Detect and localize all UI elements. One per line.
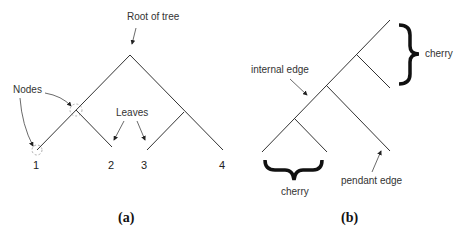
cherry-label-top: cherry (425, 48, 453, 59)
cherry-label-bottom: cherry (281, 186, 309, 197)
edge-root-to-leaf-4 (130, 55, 223, 150)
edge-to-leaf-2 (76, 110, 112, 147)
leaf-label-2: 2 (108, 159, 114, 171)
leaves-arrow-3-icon (137, 121, 145, 140)
leaf-label-3: 3 (141, 159, 147, 171)
root-label: Root of tree (127, 11, 180, 22)
internal-edge-label: internal edge (251, 64, 309, 75)
cherry-brace-top-icon (399, 25, 419, 84)
leaf-label-1: 1 (33, 159, 39, 171)
cherry-brace-bottom-icon (265, 160, 322, 180)
leaves-label: Leaves (116, 107, 148, 118)
edge-main-spine (262, 20, 390, 152)
root-arrow-icon (132, 28, 136, 44)
nodes-arrow-leaf-icon (20, 98, 33, 146)
edge-top-cherry-leaf (357, 55, 390, 88)
panel-a-caption: (a) (118, 210, 135, 226)
edge-bottom-cherry-leaf (294, 118, 327, 152)
nodes-label: Nodes (13, 84, 42, 95)
edge-to-leaf-3 (147, 112, 184, 150)
pendant-edge-label: pendant edge (341, 175, 403, 186)
nodes-arrow-internal-icon (45, 93, 71, 106)
leaf-label-4: 4 (219, 159, 225, 171)
phylogenetic-tree-figure: Root of tree Nodes Leaves 1 2 3 4 (a) ch… (0, 0, 464, 235)
panel-a-tree (37, 55, 223, 150)
panel-b-caption: (b) (341, 210, 358, 226)
pendant-edge-arrow-icon (372, 151, 381, 172)
panel-b-tree (262, 20, 390, 152)
leaves-arrow-2-icon (114, 121, 124, 140)
internal-edge-arrow-icon (290, 79, 307, 95)
edge-pendant (326, 85, 390, 151)
